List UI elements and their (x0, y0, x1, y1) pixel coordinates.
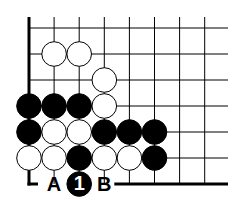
black-stone (117, 120, 142, 145)
white-stone (42, 120, 67, 145)
white-stone (92, 94, 117, 119)
black-stone (17, 94, 42, 119)
white-stone (67, 120, 92, 145)
white-stone (42, 146, 67, 171)
black-stone (42, 94, 67, 119)
point-label-b: B (97, 173, 111, 195)
black-stone (67, 94, 92, 119)
black-stone (92, 120, 117, 145)
white-stone (92, 146, 117, 171)
white-stone (42, 42, 67, 67)
point-label-a: A (47, 173, 61, 195)
black-stone (17, 120, 42, 145)
go-board: AB1 (0, 0, 243, 208)
white-stone (117, 146, 142, 171)
white-stone (17, 146, 42, 171)
white-stone (67, 42, 92, 67)
white-stone (92, 68, 117, 93)
black-stone (142, 146, 167, 171)
black-stone (67, 146, 92, 171)
black-stone (142, 120, 167, 145)
move-number: 1 (74, 172, 85, 194)
